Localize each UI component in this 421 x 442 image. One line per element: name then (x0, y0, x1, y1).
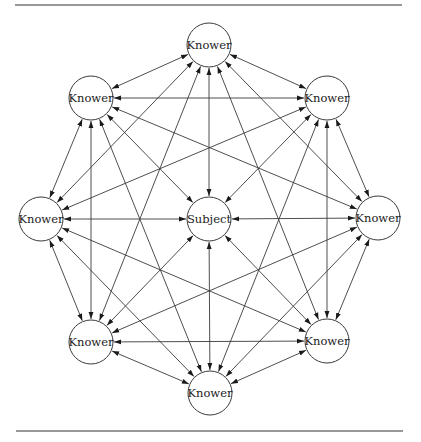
node-k-lower-left: Knower (68, 320, 114, 364)
edge-k-upper-right-to-k-right (336, 119, 369, 197)
edge-k-bottom-to-subject (209, 242, 210, 370)
node-k-top: Knower (186, 23, 232, 67)
node-label: Knower (68, 91, 114, 105)
node-label: Knower (186, 38, 232, 52)
edge-k-right-to-k-lower-left (112, 227, 357, 333)
edge-k-top-to-k-lower-left (100, 66, 201, 320)
edge-k-lower-left-to-k-left (50, 240, 83, 320)
diagram-canvas: SubjectKnowerKnowerKnowerKnowerKnowerKno… (0, 0, 421, 442)
edge-k-lower-right-to-k-lower-left (114, 341, 304, 342)
node-label: Knower (68, 335, 114, 349)
node-label: Knower (187, 386, 233, 400)
node-k-upper-right: Knower (304, 76, 350, 120)
edge-k-upper-right-to-subject (225, 115, 311, 203)
knower-subject-diagram: SubjectKnowerKnowerKnowerKnowerKnowerKno… (0, 0, 421, 442)
edge-k-top-to-k-upper-right (230, 54, 306, 88)
node-k-upper-left: Knower (68, 76, 114, 120)
node-label: Knower (304, 91, 350, 105)
edge-k-right-to-subject (232, 218, 355, 219)
node-k-bottom: Knower (187, 371, 233, 415)
node-subject: Subject (187, 197, 231, 241)
node-label: Knower (18, 212, 64, 226)
edge-k-top-to-k-lower-right (218, 66, 319, 319)
edge-k-bottom-to-k-lower-left (112, 351, 189, 384)
edge-k-left-to-k-upper-left (50, 119, 82, 197)
node-k-right: Knower (355, 196, 401, 240)
edge-k-upper-left-to-subject (107, 115, 193, 203)
edge-k-right-to-k-lower-right (336, 239, 369, 320)
node-label: Subject (187, 212, 231, 226)
edge-k-lower-left-to-subject (107, 236, 193, 326)
edge-k-upper-right-to-k-left (62, 107, 306, 210)
edge-k-top-to-k-upper-left (112, 54, 188, 88)
edge-k-lower-right-to-subject (225, 236, 311, 325)
node-k-lower-right: Knower (304, 319, 350, 363)
node-label: Knower (355, 211, 401, 225)
node-label: Knower (304, 334, 350, 348)
node-k-left: Knower (18, 197, 64, 241)
edge-k-lower-right-to-k-bottom (231, 350, 306, 383)
